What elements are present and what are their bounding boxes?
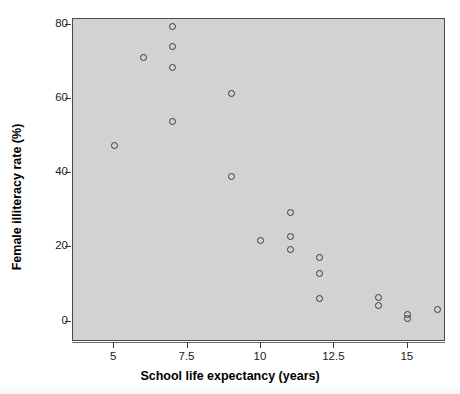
data-point <box>287 233 294 240</box>
data-point <box>257 237 264 244</box>
y-axis-title: Female illiteracy rate (%) <box>10 124 24 271</box>
data-point <box>111 142 118 149</box>
x-tick-label: 15 <box>400 350 413 362</box>
data-point <box>287 209 294 216</box>
x-tick-mark <box>187 342 188 348</box>
data-points-layer <box>73 19 444 340</box>
x-tick-label: 5 <box>110 350 116 362</box>
data-point <box>169 43 176 50</box>
data-point <box>228 173 235 180</box>
x-tick-mark <box>113 342 114 348</box>
data-point <box>169 23 176 30</box>
x-tick-label: 7.5 <box>179 350 195 362</box>
data-point <box>316 254 323 261</box>
x-axis-line <box>72 342 445 343</box>
y-axis-title-container: Female illiteracy rate (%) <box>0 0 34 394</box>
data-point <box>375 302 382 309</box>
x-tick-label: 12.5 <box>322 350 344 362</box>
data-point <box>228 90 235 97</box>
y-tick-label: 40 <box>55 166 68 177</box>
data-point <box>316 270 323 277</box>
x-tick-mark <box>333 342 334 348</box>
data-point <box>375 294 382 301</box>
y-tick-label: 20 <box>55 240 68 251</box>
plot-panel <box>72 18 445 341</box>
data-point <box>287 246 294 253</box>
data-point <box>169 118 176 125</box>
x-tick-label: 10 <box>254 350 267 362</box>
scan-edge-artifact <box>0 386 460 394</box>
x-tick-mark <box>260 342 261 348</box>
data-point <box>316 295 323 302</box>
data-point <box>140 54 147 61</box>
y-tick-label: 60 <box>55 92 68 103</box>
y-tick-label: 80 <box>55 18 68 29</box>
x-axis-title: School life expectancy (years) <box>0 369 460 383</box>
x-tick-mark <box>407 342 408 348</box>
data-point <box>169 64 176 71</box>
data-point <box>434 306 441 313</box>
data-point <box>404 315 411 322</box>
scatter-plot-figure: Female illiteracy rate (%) 020406080 57.… <box>0 0 460 394</box>
y-tick-label: 0 <box>62 315 68 326</box>
